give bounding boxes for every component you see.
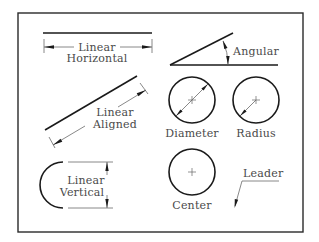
aligned-arrowhead-lower-icon bbox=[53, 139, 62, 145]
angular-label: Angular bbox=[232, 45, 279, 58]
aligned-arrowhead-upper-icon bbox=[137, 90, 146, 96]
linear-vertical-label-line2: Vertical bbox=[59, 186, 105, 199]
arrowhead-left-icon bbox=[44, 45, 54, 48]
linear-aligned-example: Linear Aligned bbox=[45, 76, 148, 148]
linear-vertical-example: Linear Vertical bbox=[40, 162, 113, 208]
angular-arrowhead-bottom-icon bbox=[226, 56, 229, 65]
center-example: Center bbox=[169, 149, 215, 212]
angular-arrowhead-top-icon bbox=[223, 41, 228, 50]
vertical-arrowhead-bottom-icon bbox=[105, 199, 108, 208]
linear-horizontal-label-line2: Horizontal bbox=[67, 52, 128, 65]
angular-example: Angular bbox=[170, 33, 279, 65]
leader-label: Leader bbox=[243, 167, 284, 180]
leader-arrowhead-icon bbox=[235, 199, 239, 208]
leader-line bbox=[235, 181, 279, 206]
diameter-example: Diameter bbox=[165, 77, 219, 140]
leader-example: Leader bbox=[235, 167, 284, 208]
radius-example: Radius bbox=[233, 77, 279, 140]
linear-horizontal-example: Linear Horizontal bbox=[43, 33, 152, 65]
linear-aligned-label-line2: Aligned bbox=[92, 118, 137, 131]
diameter-label: Diameter bbox=[165, 127, 219, 140]
angular-slanted-line bbox=[170, 33, 233, 65]
center-label: Center bbox=[172, 199, 212, 212]
radius-label: Radius bbox=[236, 127, 276, 140]
aligned-extension-line-1 bbox=[49, 137, 55, 148]
arrowhead-right-icon bbox=[142, 45, 152, 48]
vertical-arrowhead-top-icon bbox=[105, 162, 108, 171]
dimension-types-diagram: Linear Horizontal Angular Linear Aligned… bbox=[0, 0, 319, 242]
vertical-object-arc bbox=[40, 162, 63, 208]
